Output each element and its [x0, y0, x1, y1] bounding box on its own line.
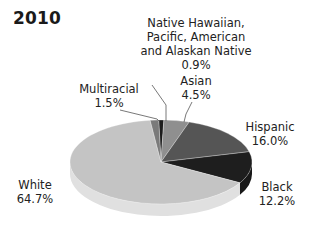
label-asian-name: Asian	[176, 74, 216, 88]
label-nhpi-line3: and Alaskan Native	[122, 44, 270, 58]
leader-line-asian	[184, 102, 192, 122]
pie-top-faces	[70, 120, 252, 204]
label-black-value: 12.2%	[252, 194, 302, 208]
label-asian-value: 4.5%	[176, 88, 216, 102]
label-white: White 64.7%	[10, 178, 60, 206]
label-hispanic-name: Hispanic	[240, 120, 300, 134]
label-nhpi-value: 0.9%	[122, 58, 270, 72]
label-multiracial-value: 1.5%	[76, 96, 142, 110]
label-multiracial-name: Multiracial	[76, 82, 142, 96]
label-nhpi-line2: Pacific, American	[122, 30, 270, 44]
label-black-name: Black	[252, 180, 302, 194]
leader-line-nhpi	[152, 85, 166, 121]
label-hispanic: Hispanic 16.0%	[240, 120, 300, 148]
label-nhpi: Native Hawaiian, Pacific, American and A…	[122, 16, 270, 72]
label-white-name: White	[10, 178, 60, 192]
label-white-value: 64.7%	[10, 192, 60, 206]
label-black: Black 12.2%	[252, 180, 302, 208]
label-hispanic-value: 16.0%	[240, 134, 300, 148]
leader-line-multiracial	[120, 110, 159, 121]
label-asian: Asian 4.5%	[176, 74, 216, 102]
label-multiracial: Multiracial 1.5%	[76, 82, 142, 110]
label-nhpi-line1: Native Hawaiian,	[122, 16, 270, 30]
